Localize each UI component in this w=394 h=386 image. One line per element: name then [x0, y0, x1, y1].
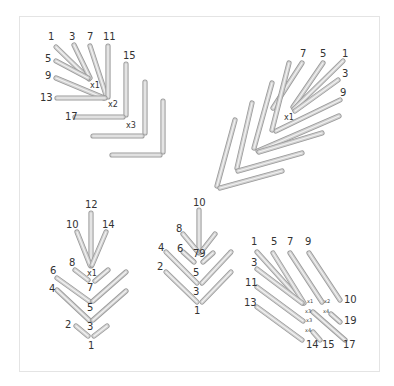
crossing-label: x4 [323, 308, 329, 314]
stick-number-label: 15 [123, 50, 136, 61]
stick-number-label: 3 [342, 68, 348, 79]
stick-number-label: 7 [287, 236, 293, 247]
stick-number-label: 1 [342, 48, 348, 59]
stick-number-label: 14 [306, 339, 319, 350]
stick-number-label: 1 [251, 236, 257, 247]
crossing-label: x1 [307, 298, 313, 304]
stick-number-label: 7 [87, 282, 93, 293]
stick [77, 232, 90, 265]
stick-number-label: 1 [194, 305, 200, 316]
stick-number-label: 13 [244, 297, 257, 308]
crossing-label: x4 [305, 327, 311, 333]
crossing-label: x1 [90, 81, 100, 90]
stick [331, 314, 340, 322]
stick-number-label: 6 [177, 243, 183, 254]
stick-number-label: 3 [193, 286, 199, 297]
stick-number-label: 8 [176, 223, 182, 234]
stick-number-label: 6 [50, 265, 56, 276]
stick-number-label: 5 [271, 236, 277, 247]
stick-number-label: 2 [157, 261, 163, 272]
stick-number-label: 9 [340, 87, 346, 98]
stick-number-label: 9 [305, 236, 311, 247]
panel-top-right: 75139x1 [217, 48, 348, 188]
stick-number-label: 11 [245, 277, 258, 288]
stick [217, 120, 235, 186]
stick [94, 326, 107, 336]
stick-number-label: 10 [193, 197, 206, 208]
stick-number-label: 2 [65, 319, 71, 330]
panel-bottom-middle: 10867945231 [157, 197, 231, 316]
crossing-label: x1 [87, 269, 97, 278]
stick-number-label: 4 [49, 283, 55, 294]
stick-number-label: 3 [69, 31, 75, 42]
stick-number-label: 5 [320, 48, 326, 59]
stick [237, 103, 252, 168]
stick-number-label: 15 [322, 339, 335, 350]
stick-number-label: 11 [103, 31, 116, 42]
crossing-label: x2 [324, 298, 330, 304]
stick-number-label: 7 [300, 48, 306, 59]
crossing-label: x3 [305, 308, 311, 314]
stick [257, 307, 302, 340]
stick [220, 171, 282, 188]
crossing-label: x2 [108, 100, 118, 109]
stick-number-label: 5 [193, 267, 199, 278]
stick-number-label: 1 [88, 340, 94, 351]
stick-number-label: 9 [45, 70, 51, 81]
stick-number-label: 7 [87, 31, 93, 42]
stick-number-label: 10 [344, 294, 357, 305]
panel-top-left: 1371159131517x1x2x3 [40, 31, 163, 155]
stick-number-label: 1 [48, 31, 54, 42]
stick-number-label: 4 [158, 242, 164, 253]
stick-number-label: 12 [85, 199, 98, 210]
stick-number-label: 17 [65, 111, 78, 122]
crossing-label: x3 [126, 121, 136, 130]
stick-number-label: 79 [193, 248, 206, 259]
stick [95, 270, 108, 281]
stick-number-label: 14 [102, 219, 115, 230]
stick-number-label: 3 [87, 321, 93, 332]
stick-number-label: 19 [344, 315, 357, 326]
stick-diagram-canvas: 1371159131517x1x2x3 75139x1 1210148x1674… [0, 0, 394, 386]
crossing-label: x3 [306, 317, 312, 323]
crossing-label: x1 [284, 113, 294, 122]
stick-number-label: 5 [87, 302, 93, 313]
stick-number-label: 17 [343, 339, 356, 350]
stick-number-label: 8 [69, 257, 75, 268]
stick-number-label: 13 [40, 92, 53, 103]
stick [254, 83, 272, 148]
panel-bottom-right: 157931113x1x210x3x419x3x4141517 [244, 236, 357, 350]
stick [238, 153, 302, 171]
stick-number-label: 5 [45, 53, 51, 64]
stick-number-label: 3 [251, 257, 257, 268]
stick-number-label: 10 [66, 219, 79, 230]
panel-bottom-left: 1210148x16745321 [49, 199, 126, 351]
stick [92, 232, 106, 265]
